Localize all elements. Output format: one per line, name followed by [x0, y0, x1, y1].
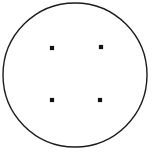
- figure-drawing: [0, 0, 154, 157]
- point-top-right: [99, 45, 103, 49]
- point-top-left: [50, 46, 54, 50]
- figure-canvas: [0, 0, 154, 157]
- point-bottom-left: [50, 98, 54, 102]
- outline-circle: [3, 3, 147, 147]
- point-bottom-right: [98, 98, 102, 102]
